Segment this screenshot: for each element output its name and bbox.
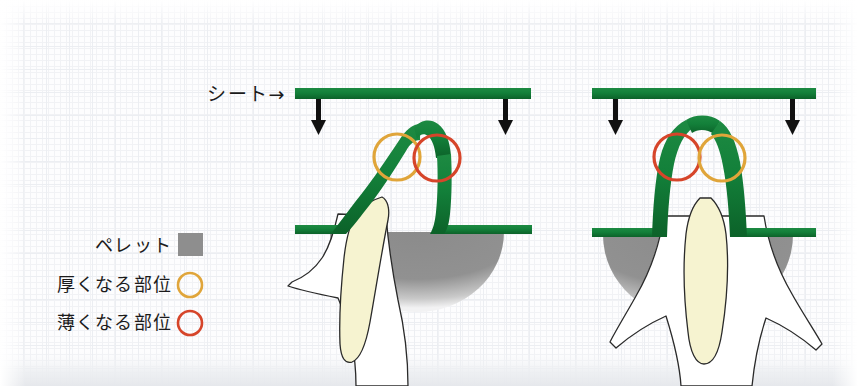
legend-label-thinning: 薄くなる部位 [57, 312, 172, 333]
legend-label-thickening: 厚くなる部位 [57, 274, 172, 295]
sheet-bar-right [592, 88, 816, 99]
pellet-swatch [178, 233, 203, 256]
edge-vignette-left [0, 0, 26, 386]
figure-canvas: シート→ [0, 0, 858, 386]
edge-vignette-right [832, 0, 858, 386]
sheet-flank-left-inner [436, 225, 532, 234]
sheet-bar-left [295, 88, 531, 99]
legend-label-pellet: ペレット [95, 235, 172, 256]
sheet-label-group: シート→ [207, 83, 286, 105]
sheet-forming-figure: シート→ [0, 0, 858, 386]
tooth-right [684, 198, 727, 364]
edge-vignette-top [0, 0, 858, 26]
sheet-flank-right-inner [744, 228, 816, 237]
legend-item-pellet: ペレット [95, 233, 203, 256]
sheet-label: シート→ [207, 83, 286, 105]
tooth-shape-right [684, 198, 727, 364]
